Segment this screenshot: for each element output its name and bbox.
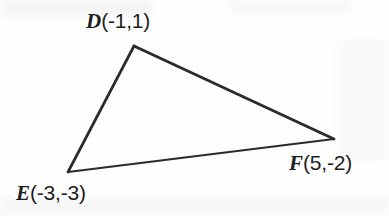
vertex-label-f: F(5,-2) xyxy=(289,152,352,174)
vertex-letter-f: F xyxy=(289,151,303,175)
vertex-coords-f: (5,-2) xyxy=(303,151,352,174)
vertex-letter-e: E xyxy=(16,181,30,205)
vertex-coords-e: (-3,-3) xyxy=(30,181,86,204)
vertex-label-d: D(-1,1) xyxy=(86,10,150,32)
geometry-figure: D(-1,1) E(-3,-3) F(5,-2) xyxy=(0,0,389,216)
vertex-coords-d: (-1,1) xyxy=(101,9,150,32)
vertex-label-e: E(-3,-3) xyxy=(16,182,86,204)
edge-DE xyxy=(68,46,134,172)
edge-DF xyxy=(134,46,334,139)
vertex-letter-d: D xyxy=(86,9,101,33)
